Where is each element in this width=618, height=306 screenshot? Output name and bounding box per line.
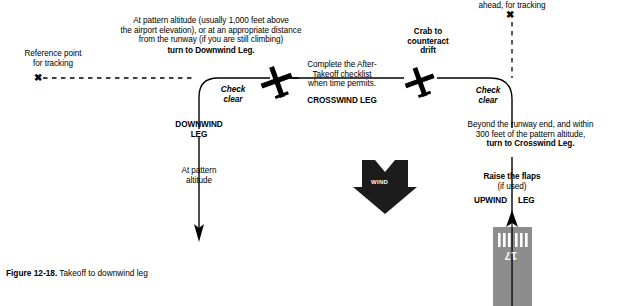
figure-caption-text: Takeoff to downwind leg <box>59 268 147 278</box>
raise-the-flaps-label: Raise the flaps <box>453 172 571 182</box>
check-clear-left-label: Check clear <box>205 85 261 104</box>
check-clear-right-label: Check clear <box>462 86 514 105</box>
turn-to-downwind-leg-note: turn to Downwind Leg. <box>86 46 336 56</box>
figure-caption: Figure 12-18. Takeoff to downwind leg <box>6 268 148 278</box>
if-used-label: (if used) <box>453 182 571 192</box>
upwind-leg-label-left: UPWIND <box>451 196 507 206</box>
reference-point-marker-top: ✖ <box>506 10 514 20</box>
downwind-leg-label: DOWNWIND LEG <box>163 120 235 139</box>
crosswind-leg-label: CROSSWIND LEG <box>294 96 390 106</box>
reference-point-marker-left: ✖ <box>34 73 42 83</box>
aircraft-symbol-crosswind-2 <box>401 63 439 101</box>
aircraft-symbol-crosswind <box>256 61 297 102</box>
at-pattern-altitude-label: At pattern altitude <box>160 166 238 185</box>
turn-to-crosswind-leg-note: turn to Crosswind Leg. <box>443 139 618 149</box>
pattern-altitude-note: At pattern altitude (usually 1,000 feet … <box>86 16 336 45</box>
crab-counteract-drift-note: Crab to counteract drift <box>388 27 468 56</box>
wind-label: WIND <box>371 179 388 185</box>
upwind-leg-label-right: LEG <box>518 196 558 206</box>
runway-designator-number: 17 <box>504 250 517 262</box>
runway-shape <box>493 227 532 306</box>
wind-arrow-icon <box>353 160 417 214</box>
figure-diagram: ✖ ✖ Reference point for tracking At patt… <box>0 0 618 306</box>
after-takeoff-checklist-note: Complete the After- Takeoff checklist wh… <box>301 60 383 89</box>
ahead-for-tracking-label: ahead, for tracking <box>447 1 577 11</box>
figure-number: Figure 12-18. <box>6 268 57 278</box>
beyond-runway-end-note: Beyond the runway end, and within 300 fe… <box>443 120 618 139</box>
